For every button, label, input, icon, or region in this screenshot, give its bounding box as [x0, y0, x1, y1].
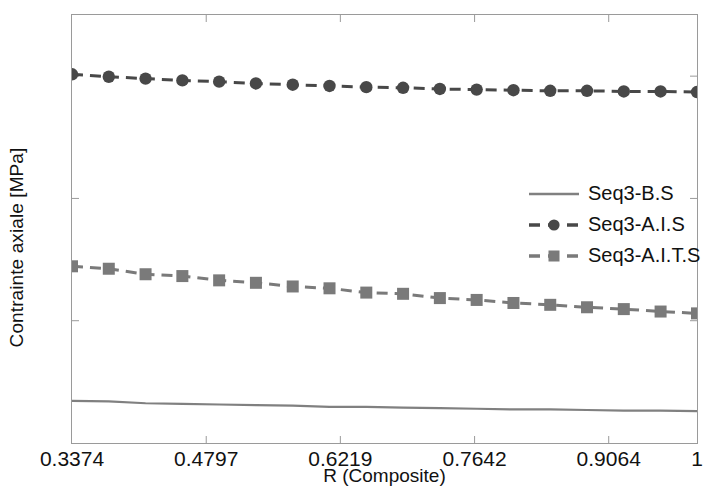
series-marker [691, 307, 697, 319]
legend-label: Seq3-A.I.T.S [588, 244, 700, 267]
series-marker [103, 263, 115, 275]
series-marker [470, 83, 482, 95]
legend-marker [548, 219, 559, 230]
series-line [72, 401, 697, 411]
legend-marker [549, 250, 560, 261]
series-marker [213, 274, 225, 286]
series-marker [287, 280, 299, 292]
series-marker [72, 260, 78, 272]
series-marker [360, 81, 372, 93]
series-marker [103, 71, 115, 83]
series-line [72, 74, 697, 92]
legend-sample-square [528, 246, 580, 266]
series-marker [250, 77, 262, 89]
series-marker [72, 68, 78, 80]
series-marker [287, 79, 299, 91]
series-marker [544, 85, 556, 97]
series-marker [140, 268, 152, 280]
series-marker [176, 270, 188, 282]
series-marker [655, 306, 667, 318]
series-marker [397, 288, 409, 300]
series-marker [691, 86, 697, 98]
series-marker [618, 85, 630, 97]
series-1 [72, 68, 697, 98]
legend-item-1: Seq3-A.I.S [528, 209, 705, 240]
legend-label: Seq3-A.I.S [588, 213, 685, 236]
series-marker [139, 72, 151, 84]
series-marker [360, 287, 372, 299]
series-marker [176, 74, 188, 86]
series-marker [654, 85, 666, 97]
series-marker [324, 282, 336, 294]
series-marker [544, 299, 556, 311]
series-marker [323, 80, 335, 92]
series-marker [434, 292, 446, 304]
legend-item-0: Seq3-B.S [528, 178, 705, 209]
chart-figure: Contrainte axiale [MPa] 1401301109070 0.… [0, 0, 705, 495]
x-axis-title: R (Composite) [71, 465, 698, 487]
legend-item-2: Seq3-A.I.T.S [528, 240, 705, 271]
y-axis-title: Contrainte axiale [MPa] [0, 0, 34, 495]
series-marker [397, 82, 409, 94]
legend-label: Seq3-B.S [588, 182, 674, 205]
series-0 [72, 401, 697, 411]
series-marker [581, 301, 593, 313]
series-marker [434, 83, 446, 95]
series-marker [507, 297, 519, 309]
series-marker [618, 303, 630, 315]
series-marker [213, 75, 225, 87]
legend-sample-circle [528, 215, 580, 235]
legend-sample-none [528, 184, 580, 204]
series-marker [581, 85, 593, 97]
series-marker [250, 277, 262, 289]
series-line [72, 266, 697, 313]
chart-legend: Seq3-B.SSeq3-A.I.SSeq3-A.I.T.S [528, 178, 705, 271]
series-marker [471, 294, 483, 306]
series-marker [507, 84, 519, 96]
